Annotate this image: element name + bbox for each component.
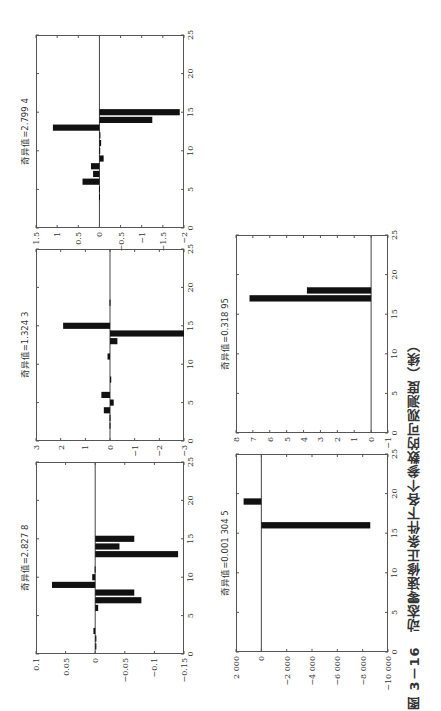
svg-text:0: 0 [367,437,376,442]
svg-text:5: 5 [186,613,195,618]
bar [110,400,114,406]
svg-text:10: 10 [390,568,399,578]
svg-text:10: 10 [186,146,195,156]
svg-text:0.1: 0.1 [32,658,41,671]
svg-text:15: 15 [186,534,195,544]
subplot-sv-0-0013045: 2 0000−2 000−4 000−6 000−8 000−10 000051… [236,454,388,652]
bar [110,376,111,382]
svg-text:−2: −2 [155,445,164,457]
bar [91,163,99,169]
subplot-title: 奇异值=0.001 304 5 [220,510,230,596]
svg-text:7: 7 [249,437,258,442]
svg-text:15: 15 [390,528,399,538]
svg-text:2: 2 [333,437,342,442]
svg-text:−10 000: −10 000 [384,656,393,691]
bar [53,125,100,131]
svg-text:2 000: 2 000 [232,656,241,679]
subplot-title: 奇异值=2.799 4 [20,98,30,165]
bar [95,551,178,557]
svg-text:−6 000: −6 000 [333,656,342,686]
svg-text:3: 3 [316,437,325,442]
bar [101,392,110,398]
bar [95,543,119,549]
svg-text:25: 25 [390,230,399,240]
subplot-title: 奇异值=0.318 95 [220,298,230,370]
svg-text:5: 5 [390,391,399,396]
bar [92,574,95,580]
subplot-title: 奇异值=2.827 8 [20,525,30,592]
svg-text:−2 000: −2 000 [283,656,292,686]
bar [93,171,99,177]
bar [95,589,134,595]
bar [95,643,96,649]
svg-text:1: 1 [81,445,90,450]
bar [99,155,103,161]
subplot-sv-2-8278: 0.10.050−0.05−0.1−0.150510152025奇异值=2.82… [36,462,184,654]
svg-text:5: 5 [186,187,195,192]
bar [95,636,96,642]
svg-text:25: 25 [186,244,195,254]
bar [250,295,372,301]
svg-text:10: 10 [390,349,399,359]
svg-text:0.05: 0.05 [62,658,71,676]
svg-text:8: 8 [232,437,241,442]
bar [99,132,100,138]
bar-plot: 1.510.50−0.5−1−1.5−20510152025奇异值=2.799 … [36,35,184,228]
svg-text:−1: −1 [384,437,393,449]
svg-text:−0.15: −0.15 [180,658,189,683]
bar [95,566,96,572]
svg-text:1.5: 1.5 [32,232,41,245]
svg-text:20: 20 [390,489,399,499]
svg-text:25: 25 [186,457,195,467]
svg-text:0.5: 0.5 [74,232,83,245]
bar [99,140,101,146]
svg-text:20: 20 [186,69,195,79]
bar [110,338,117,344]
bar [99,194,100,200]
svg-text:0: 0 [390,649,399,654]
svg-text:−2: −2 [180,232,189,244]
figure-caption-text: 动态零速修正条件下各个参数的可观测度（续） [405,338,424,632]
bar [83,179,100,185]
svg-text:0: 0 [257,656,266,661]
bar [110,415,111,421]
svg-text:10: 10 [186,572,195,582]
svg-text:20: 20 [390,270,399,280]
subplot-title: 奇异值=1.324 3 [20,312,30,379]
svg-text:0: 0 [186,225,195,230]
bar [63,323,110,329]
svg-text:−1: −1 [138,232,147,244]
bar [307,287,371,293]
bar [244,498,262,504]
svg-text:2: 2 [57,445,66,450]
bar [99,109,179,115]
bar [110,423,111,429]
bar [99,117,152,123]
svg-text:25: 25 [390,449,399,459]
svg-text:−3: −3 [180,445,189,457]
bar-plot: 3210−1−2−30510152025奇异值=1.324 3 [36,249,184,441]
svg-text:10: 10 [186,359,195,369]
bar-plot: 0.10.050−0.05−0.1−0.150510152025奇异值=2.82… [36,462,184,654]
bar [108,353,110,359]
svg-text:15: 15 [186,107,195,117]
svg-text:15: 15 [186,321,195,331]
bar-plot: 2 0000−2 000−4 000−6 000−8 000−10 000051… [236,454,388,652]
svg-text:25: 25 [186,30,195,40]
bar [99,148,100,154]
figure-caption: 图 3－16 动态零速修正条件下各个参数的可观测度（续） [402,110,426,710]
svg-text:5: 5 [390,610,399,615]
bar [261,522,370,528]
svg-text:3: 3 [32,445,41,450]
bar [95,605,98,611]
bar [95,536,134,542]
svg-text:−8 000: −8 000 [359,656,368,686]
bar [110,330,184,336]
svg-text:20: 20 [186,282,195,292]
svg-text:0: 0 [95,232,104,237]
svg-text:−4 000: −4 000 [308,656,317,686]
bar [99,186,100,192]
svg-text:−1: −1 [131,445,140,457]
bar [110,300,111,306]
bar-plot: 876543210−10510152025奇异值=0.318 95 [236,235,388,433]
